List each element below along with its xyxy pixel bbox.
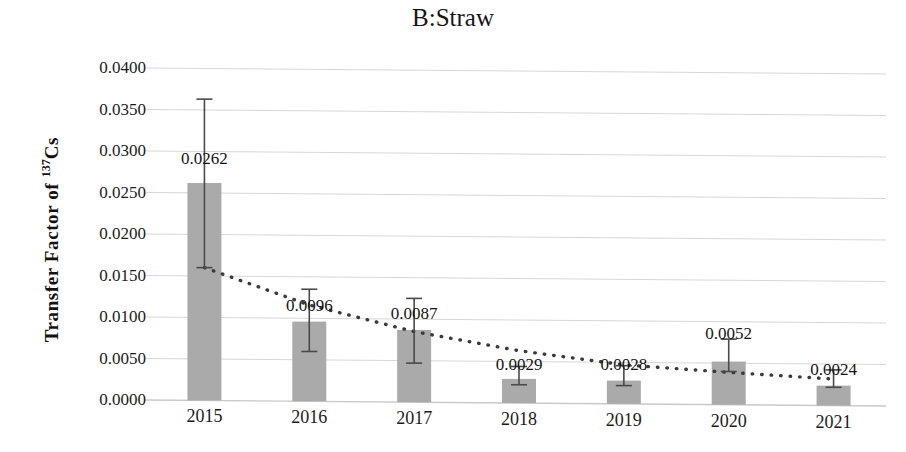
chart-figure: B:Straw Transfer Factor of 137Cs 0.04000… — [0, 0, 906, 452]
x-axis-tick-label: 2020 — [684, 411, 774, 432]
x-axis-tick-label: 2019 — [579, 410, 669, 431]
x-axis-tick-labels: 2015201620172018201920202021 — [0, 0, 906, 452]
x-axis-tick-label: 2021 — [789, 412, 879, 433]
x-axis-tick-label: 2018 — [474, 409, 564, 430]
x-axis-tick-label: 2016 — [264, 407, 354, 428]
x-axis-tick-label: 2017 — [369, 408, 459, 429]
x-axis-tick-label: 2015 — [159, 406, 249, 427]
